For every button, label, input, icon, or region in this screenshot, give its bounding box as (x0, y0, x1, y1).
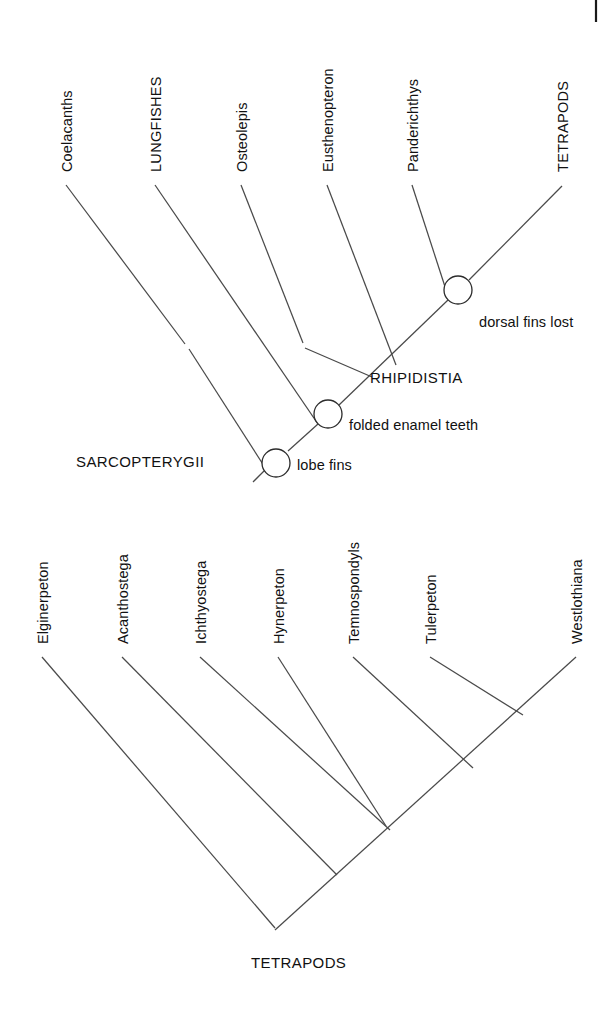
lower-branch-acanthostega (122, 657, 337, 875)
node-dorsal-fins-lost (444, 276, 472, 304)
upper-branch-coelacanths-b (189, 349, 266, 469)
tip-label-hynerpeton: Hynerpeton (271, 568, 287, 644)
trait-label-lobe-fins: lobe fins (297, 457, 352, 473)
tip-label-westlothiana: Westlothiana (569, 558, 585, 644)
upper-root-stem (253, 471, 264, 482)
tip-label-temnospondyls: Temnospondyls (346, 542, 362, 644)
cladogram-figure: Coelacanths LUNGFISHES Osteolepis Eusthe… (0, 0, 614, 1022)
clade-label-sarcopterygii: SARCOPTERYGII (76, 453, 204, 470)
tip-label-elginerpeton: Elginerpeton (35, 561, 51, 644)
tip-label-osteolepis: Osteolepis (234, 102, 250, 172)
lower-tree-branches (42, 657, 576, 930)
lower-tip-labels: Elginerpeton Acanthostega Ichthyostega H… (35, 542, 585, 644)
upper-backbone-seg-2 (339, 300, 448, 405)
upper-tree-branches (66, 185, 562, 482)
tip-label-acanthostega: Acanthostega (115, 553, 131, 644)
tip-label-panderichthys: Panderichthys (405, 79, 421, 172)
root-label-tetrapods-lower: TETRAPODS (251, 954, 346, 971)
clade-label-rhipidistia: RHIPIDISTIA (370, 369, 463, 386)
tip-label-eusthenopteron: Eusthenopteron (320, 68, 336, 172)
upper-branch-coelacanths-a (66, 185, 185, 344)
upper-branch-eusthenopteron (327, 185, 396, 365)
upper-backbone-seg-3 (469, 186, 562, 280)
node-folded-enamel-teeth (314, 400, 342, 428)
node-lobe-fins (262, 449, 290, 477)
lower-branch-hynerpeton (278, 657, 386, 826)
upper-branch-osteolepis-b (305, 348, 372, 377)
lower-branch-elginerpeton (42, 657, 275, 928)
lower-branch-tulerpeton (430, 657, 523, 715)
upper-branch-panderichthys (412, 185, 449, 299)
tip-label-tetrapods-upper: TETRAPODS (555, 81, 571, 172)
tip-label-tulerpeton: Tulerpeton (423, 574, 439, 644)
upper-branch-lungfishes (155, 185, 318, 424)
trait-label-folded-enamel-teeth: folded enamel teeth (349, 417, 478, 433)
upper-branch-osteolepis-a (241, 185, 303, 343)
upper-tip-labels: Coelacanths LUNGFISHES Osteolepis Eusthe… (59, 68, 571, 172)
tip-label-coelacanths: Coelacanths (59, 90, 75, 172)
tip-label-lungfishes: LUNGFISHES (148, 76, 164, 172)
trait-label-dorsal-fins-lost: dorsal fins lost (479, 314, 573, 330)
upper-annotation-labels: RHIPIDISTIA SARCOPTERYGII dorsal fins lo… (76, 314, 573, 473)
upper-backbone-seg-1 (288, 424, 318, 451)
cladogram-canvas: Coelacanths LUNGFISHES Osteolepis Eusthe… (0, 0, 614, 1022)
tip-label-ichthyostega: Ichthyostega (193, 560, 209, 644)
lower-branch-temnospondyls (353, 657, 473, 768)
lower-backbone (275, 657, 576, 930)
